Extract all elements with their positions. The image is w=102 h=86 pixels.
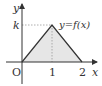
origin-label: O bbox=[12, 66, 21, 79]
k-tick-label: k bbox=[13, 19, 20, 32]
x-tick-label-2: 2 bbox=[79, 66, 86, 79]
function-graph: y k y=f(x) O 1 2 x bbox=[0, 0, 102, 86]
y-axis-label: y bbox=[12, 2, 20, 15]
function-label: y=f(x) bbox=[58, 19, 90, 30]
x-tick-label-1: 1 bbox=[49, 66, 56, 79]
x-axis-label: x bbox=[92, 66, 99, 79]
